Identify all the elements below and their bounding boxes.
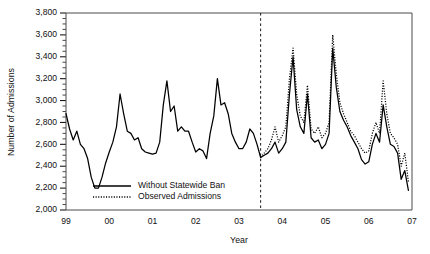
- series-observed-admissions: [261, 35, 409, 182]
- x-tick-label: 07: [407, 216, 417, 226]
- legend-label-observed-admissions: Observed Admissions: [138, 191, 221, 201]
- chart-legend: Without Statewide Ban Observed Admission…: [93, 180, 225, 201]
- y-axis-title: Number of Admissions: [6, 67, 16, 156]
- chart-figure: 2,0002,2002,4002,6002,8003,0003,2003,400…: [0, 0, 430, 254]
- x-axis-tick-labels: 990001020304050607: [61, 216, 417, 226]
- y-axis-tick-labels: 2,0002,2002,4002,6002,8003,0003,2003,400…: [35, 7, 57, 214]
- legend-label-without-statewide-ban: Without Statewide Ban: [138, 180, 225, 190]
- y-tick-label: 2,000: [35, 204, 57, 214]
- y-axis-minor-ticks: [63, 18, 67, 204]
- x-tick-label: 00: [104, 216, 114, 226]
- x-tick-label: 03: [234, 216, 244, 226]
- y-tick-label: 3,800: [35, 7, 57, 17]
- x-tick-label: 04: [277, 216, 287, 226]
- x-tick-label: 05: [321, 216, 331, 226]
- y-tick-label: 3,000: [35, 95, 57, 105]
- x-tick-label: 06: [364, 216, 374, 226]
- series-without-statewide-ban: [66, 48, 408, 190]
- y-tick-label: 2,600: [35, 139, 57, 149]
- x-tick-label: 01: [148, 216, 158, 226]
- admissions-time-series-chart: 2,0002,2002,4002,6002,8003,0003,2003,400…: [0, 0, 430, 254]
- x-tick-label: 99: [61, 216, 71, 226]
- x-tick-label: 02: [191, 216, 201, 226]
- y-tick-label: 3,400: [35, 51, 57, 61]
- y-tick-label: 2,400: [35, 160, 57, 170]
- y-tick-label: 3,600: [35, 29, 57, 39]
- y-tick-label: 2,200: [35, 182, 57, 192]
- y-tick-label: 2,800: [35, 117, 57, 127]
- x-axis-title: Year: [230, 235, 248, 245]
- y-tick-label: 3,200: [35, 73, 57, 83]
